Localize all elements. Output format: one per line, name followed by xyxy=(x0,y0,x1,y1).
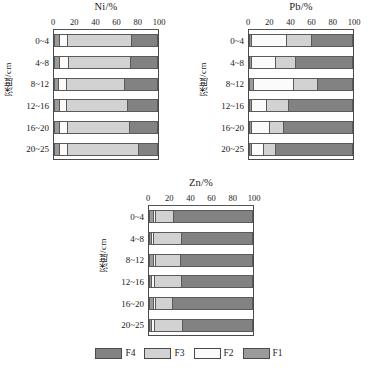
stacked-bar[interactable] xyxy=(249,56,353,69)
stacked-bar[interactable] xyxy=(249,99,353,112)
chart-title-zn: Zn/% xyxy=(148,177,254,188)
bar-segment-f2[interactable] xyxy=(251,122,269,133)
stacked-bar[interactable] xyxy=(249,78,353,91)
bar-row-slot xyxy=(54,95,158,117)
bar-segment-f3[interactable] xyxy=(153,233,181,244)
bar-segment-f2[interactable] xyxy=(59,144,67,155)
legend-item-f2[interactable]: F2 xyxy=(194,348,234,359)
bar-row-slot xyxy=(149,293,253,315)
bar-segment-f4[interactable] xyxy=(288,100,352,111)
legend: F4F3F2F1 xyxy=(0,342,378,364)
legend-label: F3 xyxy=(174,348,184,358)
bar-segment-f4[interactable] xyxy=(130,57,157,68)
bar-row-slot xyxy=(149,206,253,228)
stacked-bar[interactable] xyxy=(149,297,253,310)
bar-segment-f4[interactable] xyxy=(311,35,352,46)
stacked-bar[interactable] xyxy=(54,143,158,156)
bar-segment-f2[interactable] xyxy=(59,35,67,46)
bar-segment-f3[interactable] xyxy=(155,255,179,266)
bar-row-slot xyxy=(54,138,158,160)
y-tick-label: 0~4 xyxy=(230,36,244,46)
bar-segment-f3[interactable] xyxy=(154,276,181,287)
bar-segment-f2[interactable] xyxy=(59,100,66,111)
bar-segment-f3[interactable] xyxy=(286,35,312,46)
bar-segment-f4[interactable] xyxy=(283,122,352,133)
bar-segment-f3[interactable] xyxy=(67,122,129,133)
bar-segment-f4[interactable] xyxy=(182,320,252,331)
bar-segment-f2[interactable] xyxy=(251,57,275,68)
bar-segment-f4[interactable] xyxy=(124,79,157,90)
x-tick-label: 80 xyxy=(329,17,338,27)
x-tick-label: 100 xyxy=(248,193,261,203)
bar-segment-f4[interactable] xyxy=(131,35,157,46)
bar-segment-f4[interactable] xyxy=(295,57,352,68)
y-tick-label: 20~25 xyxy=(221,144,244,154)
bar-segment-f3[interactable] xyxy=(154,320,182,331)
bar-segment-f4[interactable] xyxy=(138,144,157,155)
legend-swatch-f1 xyxy=(243,348,270,359)
bar-segment-f3[interactable] xyxy=(275,57,294,68)
bar-segment-f3[interactable] xyxy=(266,100,287,111)
y-tick-label: 16~20 xyxy=(121,299,144,309)
stacked-bar[interactable] xyxy=(54,121,158,134)
bar-row-slot xyxy=(249,138,353,160)
bar-segment-f2[interactable] xyxy=(251,144,263,155)
bar-segment-f4[interactable] xyxy=(317,79,352,90)
bar-segment-f4[interactable] xyxy=(127,100,157,111)
bar-segment-f2[interactable] xyxy=(251,100,266,111)
stacked-bar[interactable] xyxy=(249,121,353,134)
stacked-bar[interactable] xyxy=(249,143,353,156)
bar-segment-f3[interactable] xyxy=(66,79,124,90)
bar-segment-f2[interactable] xyxy=(253,79,293,90)
stacked-bar[interactable] xyxy=(54,56,158,69)
x-axis-tick-labels-pb: 020406080100 xyxy=(248,17,354,28)
bar-segment-f3[interactable] xyxy=(155,298,172,309)
y-tick-label: 8~12 xyxy=(126,255,144,265)
stacked-bar[interactable] xyxy=(149,232,253,245)
bar-segment-f3[interactable] xyxy=(66,100,127,111)
bar-segment-f4[interactable] xyxy=(180,255,252,266)
x-tick-label: 100 xyxy=(153,17,166,27)
bar-segment-f2[interactable] xyxy=(58,79,66,90)
bar-segment-f3[interactable] xyxy=(269,122,282,133)
bar-row-slot xyxy=(54,30,158,52)
bar-segment-f3[interactable] xyxy=(67,35,131,46)
legend-item-f4[interactable]: F4 xyxy=(95,348,135,359)
bar-row-slot xyxy=(249,30,353,52)
bar-segment-f2[interactable] xyxy=(251,35,286,46)
legend-item-f3[interactable]: F3 xyxy=(144,348,184,359)
bar-segment-f3[interactable] xyxy=(67,144,137,155)
stacked-bar[interactable] xyxy=(149,210,253,223)
y-axis-title-ni: 深度/cm xyxy=(1,62,14,96)
stacked-bar[interactable] xyxy=(149,254,253,267)
bar-segment-f3[interactable] xyxy=(155,211,173,222)
bar-segment-f4[interactable] xyxy=(275,144,352,155)
bar-segment-f3[interactable] xyxy=(263,144,275,155)
bar-segment-f3[interactable] xyxy=(293,79,317,90)
bar-segment-f3[interactable] xyxy=(68,57,130,68)
stacked-bar[interactable] xyxy=(54,78,158,91)
legend-item-f1[interactable]: F1 xyxy=(243,348,283,359)
bar-segment-f4[interactable] xyxy=(129,122,157,133)
bar-segment-f2[interactable] xyxy=(59,122,67,133)
x-tick-label: 0 xyxy=(246,17,250,27)
stacked-bar[interactable] xyxy=(54,34,158,47)
x-tick-label: 0 xyxy=(51,17,55,27)
legend-swatch-f2 xyxy=(194,348,221,359)
bar-segment-f4[interactable] xyxy=(181,233,252,244)
bar-segment-f2[interactable] xyxy=(59,57,68,68)
x-tick-label: 60 xyxy=(112,17,121,27)
x-tick-label: 80 xyxy=(229,193,238,203)
y-tick-label: 12~16 xyxy=(121,277,144,287)
y-axis-title-pb: 深度/cm xyxy=(196,62,209,96)
y-tick-label: 20~25 xyxy=(121,320,144,330)
bar-row-slot xyxy=(149,249,253,271)
stacked-bar[interactable] xyxy=(54,99,158,112)
bar-segment-f4[interactable] xyxy=(173,211,252,222)
bar-segment-f4[interactable] xyxy=(172,298,252,309)
bar-segment-f4[interactable] xyxy=(181,276,252,287)
stacked-bar[interactable] xyxy=(149,275,253,288)
stacked-bar[interactable] xyxy=(249,34,353,47)
stacked-bar[interactable] xyxy=(149,319,253,332)
legend-swatch-f4 xyxy=(95,348,122,359)
